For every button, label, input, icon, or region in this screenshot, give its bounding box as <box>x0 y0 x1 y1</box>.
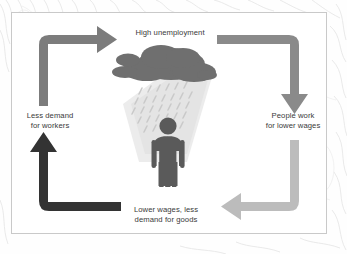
node-label-people-work-for-lower-wages: People work for lower wages <box>249 111 337 131</box>
node-label-lower-wages-less-demand-for-goods: Lower wages, less demand for goods <box>110 205 222 225</box>
arrow-right-to-bottom <box>221 140 299 220</box>
rain-cloud-over-person-illustration <box>112 45 217 187</box>
arrow-bottom-to-left <box>30 132 121 211</box>
cloud-icon <box>112 45 217 82</box>
node-label-less-demand-for-workers: Less demand for workers <box>6 111 94 131</box>
node-label-high-unemployment: High unemployment <box>115 28 225 38</box>
arrow-top-to-right <box>217 35 308 114</box>
diagram-canvas: High unemployment People work for lower … <box>0 0 347 254</box>
arrow-left-to-top <box>39 26 117 106</box>
